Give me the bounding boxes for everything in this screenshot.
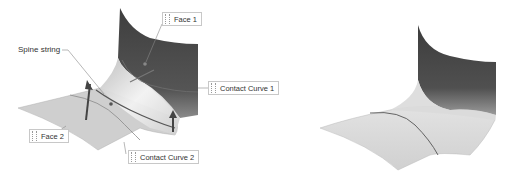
- face-2-callout[interactable]: Face 2: [29, 129, 69, 143]
- contact-curve-1-label: Contact Curve 1: [220, 84, 274, 93]
- figure: Spine string Face 1 Contact Curve 1 Face…: [0, 0, 516, 180]
- contact-curve-2-label: Contact Curve 2: [140, 153, 194, 162]
- leader-spine-string: [62, 50, 104, 94]
- face-2-label: Face 2: [41, 132, 64, 141]
- face-1-point: [143, 62, 147, 66]
- grip-icon: [165, 14, 170, 24]
- face-1-callout[interactable]: Face 1: [162, 12, 202, 26]
- grip-icon: [211, 83, 216, 93]
- face-2-point: [109, 102, 113, 106]
- grip-icon: [131, 152, 136, 162]
- contact-curve-1-callout[interactable]: Contact Curve 1: [208, 81, 279, 95]
- face-1-label: Face 1: [174, 15, 197, 24]
- grip-icon: [32, 131, 37, 141]
- right-view: [290, 0, 516, 180]
- contact-curve-2-callout[interactable]: Contact Curve 2: [128, 150, 199, 164]
- spine-string-label: Spine string: [18, 45, 60, 54]
- vector-arrowhead-left: [85, 80, 93, 90]
- leader-contact-curve-2: [124, 142, 126, 154]
